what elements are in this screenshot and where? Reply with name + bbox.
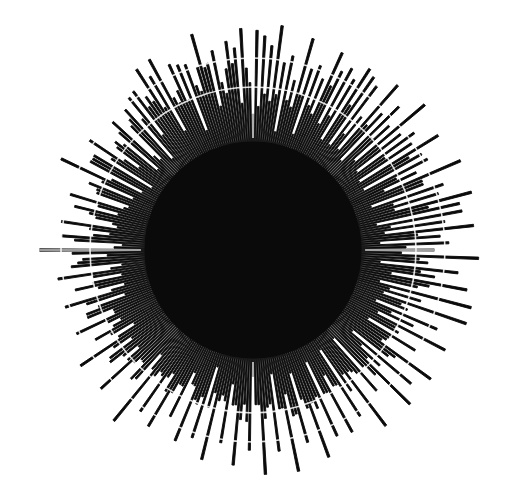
figure-root [0, 0, 507, 500]
saturated-core [144, 141, 361, 358]
radial-bar-chart [0, 0, 507, 500]
